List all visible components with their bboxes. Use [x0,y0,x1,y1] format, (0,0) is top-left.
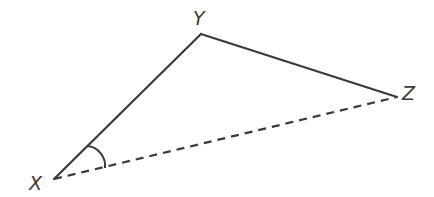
edge-yz [201,34,397,97]
vertex-label-x: X [28,172,43,194]
vertex-label-y: Y [193,7,206,29]
vertex-label-z: Z [401,82,416,104]
edge-xy [54,34,201,179]
angle-x-marker [88,146,105,168]
triangle-diagram: X Y Z [0,0,434,197]
